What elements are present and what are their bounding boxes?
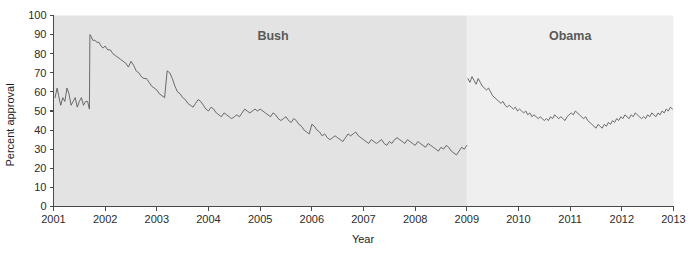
x-tick-label-2007: 2007 — [351, 213, 375, 225]
x-axis-title: Year — [352, 233, 375, 245]
x-tick-label-2012: 2012 — [610, 213, 634, 225]
x-tick-label-2011: 2011 — [558, 213, 582, 225]
era-region-bush — [54, 16, 467, 207]
x-tick-label-2008: 2008 — [403, 213, 427, 225]
x-tick-label-2006: 2006 — [300, 213, 324, 225]
approval-rating-figure: 0102030405060708090100 20012002200320042… — [0, 0, 697, 254]
x-tick-label-2010: 2010 — [506, 213, 530, 225]
x-tick-label-2004: 2004 — [196, 213, 220, 225]
annotation-bush: Bush — [257, 29, 288, 43]
x-axis-ticks: 2001200220032004200520062007200820092010… — [41, 207, 685, 225]
y-tick-label-10: 10 — [34, 181, 46, 193]
x-tick-label-2001: 2001 — [41, 213, 65, 225]
era-region-obama — [467, 16, 674, 207]
y-tick-label-100: 100 — [28, 9, 46, 21]
y-tick-label-30: 30 — [34, 143, 46, 155]
y-axis-ticks: 0102030405060708090100 — [28, 9, 53, 212]
annotation-obama: Obama — [549, 29, 592, 43]
x-tick-label-2005: 2005 — [248, 213, 272, 225]
x-tick-label-2009: 2009 — [455, 213, 479, 225]
x-tick-label-2003: 2003 — [145, 213, 169, 225]
y-tick-label-80: 80 — [34, 48, 46, 60]
era-shaded-regions — [54, 16, 674, 207]
x-tick-label-2002: 2002 — [93, 213, 117, 225]
y-tick-label-60: 60 — [34, 86, 46, 98]
y-tick-label-40: 40 — [34, 124, 46, 136]
presidential-approval-chart: 0102030405060708090100 20012002200320042… — [0, 0, 697, 254]
y-tick-label-0: 0 — [40, 200, 46, 212]
x-tick-label-2013: 2013 — [661, 213, 685, 225]
y-tick-label-70: 70 — [34, 67, 46, 79]
y-tick-label-90: 90 — [34, 28, 46, 40]
y-tick-label-50: 50 — [34, 105, 46, 117]
y-tick-label-20: 20 — [34, 162, 46, 174]
y-axis-title: Percent approval — [4, 83, 16, 166]
